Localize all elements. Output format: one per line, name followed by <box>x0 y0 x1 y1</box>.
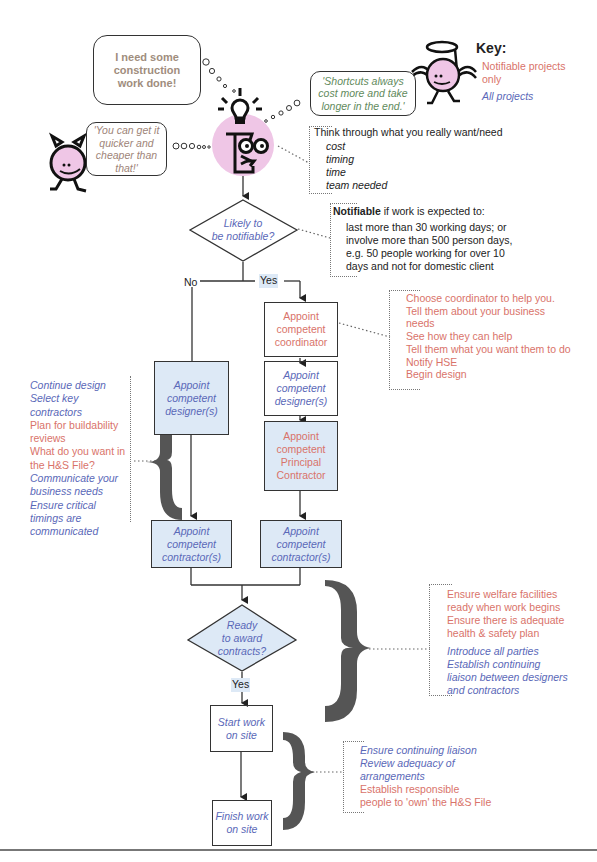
note-line: Tell them what you want them to do <box>406 343 571 356</box>
box-line: Appoint <box>275 310 328 323</box>
thought-dots-angel <box>265 100 300 122</box>
note-line: timings are <box>30 512 125 525</box>
devil-bubble-line: quicker and <box>94 137 160 150</box>
box-line: competent <box>162 538 221 551</box>
notifiable-note-heading: Notifiable if work is expected to: <box>333 205 485 219</box>
client-figure <box>212 88 274 176</box>
note-line: See how they can help <box>406 330 571 343</box>
note-line: Ensure continuing liaison <box>360 744 491 757</box>
decision-line: Likely to <box>193 217 293 230</box>
box-line: Appoint <box>272 525 331 538</box>
think-item: timing <box>326 153 387 166</box>
note-line: Tell them about your business <box>406 305 571 318</box>
brace-contracts <box>325 580 371 722</box>
box-line: Appoint <box>162 525 221 538</box>
note-line: business needs <box>30 485 125 498</box>
note-line: Choose coordinator to help you. <box>406 292 571 305</box>
angel-figure <box>412 42 476 103</box>
no-label: No <box>184 276 197 290</box>
devil-bubble-line: that!' <box>94 162 160 175</box>
yes2-label: Yes <box>231 678 250 692</box>
notifiable-line: last more than 30 working days; or <box>346 221 512 234</box>
finish-work-box: Finish work on site <box>212 800 272 846</box>
note-line: Plan for buildability <box>30 419 125 432</box>
note-line: the H&S File? <box>30 459 125 472</box>
note-line: Establish responsible <box>360 783 491 796</box>
note-line: What do you want in <box>30 445 125 458</box>
decision-contracts: Ready to award contracts? <box>192 619 292 658</box>
box-line: contractor(s) <box>162 551 221 564</box>
contracts-note-lines: Ensure welfare facilities ready when wor… <box>447 588 568 697</box>
legend-notifiable: Notifiable projects only <box>482 60 565 86</box>
devil-bubble-line: cheaper than <box>94 149 160 162</box>
client-bubble-line: work done! <box>114 77 181 90</box>
box-line: competent <box>275 323 328 336</box>
notifiable-line: days and not for domestic client <box>346 260 512 273</box>
design-note-lines: Continue design Select key contractors P… <box>30 379 125 539</box>
note-line: Establish continuing <box>447 658 568 671</box>
devil-speech-bubble: 'You can get it quicker and cheaper than… <box>86 122 167 176</box>
note-line: Ensure critical <box>30 499 125 512</box>
note-line: needs <box>406 317 571 330</box>
note-line: Review adequacy of <box>360 757 491 770</box>
think-note-heading: Think through what you really want/need <box>314 126 503 140</box>
decision-line: to award <box>192 632 292 645</box>
box-line: Start work <box>218 716 265 729</box>
angel-speech-bubble: 'Shortcuts always cost more and take lon… <box>310 71 416 116</box>
decision-line: be notifiable? <box>193 230 293 243</box>
legend-notifiable-line: Notifiable projects <box>482 60 565 73</box>
box-line: competent <box>276 443 325 456</box>
angel-bubble-line: 'Shortcuts always <box>318 75 407 88</box>
box-line: contractor(s) <box>272 551 331 564</box>
note-line: liaison between designers <box>447 671 568 684</box>
notifiable-note-lines: last more than 30 working days; or invol… <box>346 221 512 273</box>
box-line: Contractor <box>276 469 325 482</box>
appoint-designer-left-box: Appoint competent designer(s) <box>154 361 229 435</box>
note-line: contractors <box>30 406 125 419</box>
yes-label: Yes <box>259 274 278 288</box>
design-note <box>130 376 131 522</box>
box-line: competent <box>165 392 218 405</box>
appoint-contractor-right-box: Appoint competent contractor(s) <box>260 520 342 568</box>
box-line: designer(s) <box>165 405 218 418</box>
appoint-principal-contractor-box: Appoint competent Principal Contractor <box>264 421 338 491</box>
appoint-designer-right-box: Appoint competent designer(s) <box>264 361 338 416</box>
note-line: health & safety plan <box>447 627 568 640</box>
client-bubble-line: construction <box>114 64 181 77</box>
note-line: communicated <box>30 525 125 538</box>
think-note-items: cost timing time team needed <box>326 140 387 192</box>
thought-dots-devil <box>173 143 210 149</box>
box-line: Principal <box>276 456 325 469</box>
note-line: people to 'own' the H&S File <box>360 796 491 809</box>
devil-figure <box>50 136 86 191</box>
box-line: on site <box>215 823 268 836</box>
note-line: reviews <box>30 432 125 445</box>
legend-title: Key: <box>476 40 565 56</box>
client-thought-bubble: I need some construction work done! <box>93 35 201 105</box>
legend-notifiable-line: only <box>482 73 565 86</box>
think-item: time <box>326 166 387 179</box>
note-line: Introduce all parties <box>447 645 568 658</box>
box-line: on site <box>218 729 265 742</box>
note-line: Ensure there is adequate <box>447 614 568 627</box>
note-line: ready when work begins <box>447 601 568 614</box>
legend-all: All projects <box>482 90 565 102</box>
note-line: and contractors <box>447 684 568 697</box>
note-line: Notify HSE <box>406 356 571 369</box>
site-note-lines: Ensure continuing liaison Review adequac… <box>360 744 491 809</box>
think-item: cost <box>326 140 387 153</box>
note-line: Continue design <box>30 379 125 392</box>
think-item: team needed <box>326 179 387 192</box>
client-bubble-line: I need some <box>114 51 181 64</box>
thought-dots-client <box>203 59 236 92</box>
legend: Key: Notifiable projects only All projec… <box>476 40 565 102</box>
notifiable-bold: Notifiable <box>333 205 381 217</box>
box-line: Appoint <box>275 369 328 382</box>
box-line: Appoint <box>276 430 325 443</box>
note-line: Begin design <box>406 368 571 381</box>
note-line: Ensure welfare facilities <box>447 588 568 601</box>
box-line: Finish work <box>215 810 268 823</box>
coordinator-note-lines: Choose coordinator to help you. Tell the… <box>406 292 571 381</box>
notifiable-line: e.g. 50 people working for over 10 <box>346 247 512 260</box>
brace-site <box>283 732 315 830</box>
